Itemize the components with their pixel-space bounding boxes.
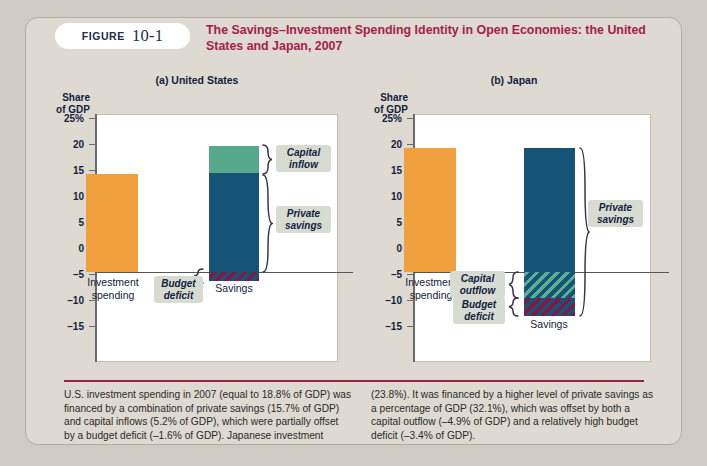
plot-area-jp: Share of GDP 25% 20 15 10 5 0 [356, 90, 672, 365]
brace-private-savings-us [261, 174, 273, 273]
annotation-budget-deficit-line1-us: Budget [158, 278, 199, 290]
y-tick-20-us [89, 144, 96, 145]
brace-budget-deficit-jp [508, 297, 520, 317]
category-label-savings-us: Savings [198, 282, 270, 295]
figure-root: Figure 10-1 The Savings–Investment Spend… [0, 0, 707, 466]
caption-left: U.S. investment spending in 2007 (equal … [64, 388, 352, 445]
panel-japan: (b) Japan Share of GDP 25% 20 [356, 74, 672, 365]
annotation-private-savings-line2-jp: savings [592, 214, 639, 226]
annotation-private-savings-line1-jp: Private [592, 202, 639, 214]
bar-investment-spending-jp [404, 148, 456, 272]
annotation-budget-deficit-line1-jp: Budget [457, 299, 501, 311]
panel-title-us: (a) United States [38, 74, 356, 86]
y-label-25-us: 25% [40, 113, 84, 124]
bar-segment-budget-deficit-us [209, 272, 259, 281]
annotation-private-savings-line1-us: Private [280, 208, 327, 220]
brace-capital-inflow-us [261, 144, 273, 175]
annotation-budget-deficit-us: Budget deficit [154, 276, 203, 303]
category-label-savings-jp: Savings [513, 318, 585, 331]
annotation-capital-outflow-jp: Capital outflow [450, 271, 505, 298]
caption-right: (23.8%). It was financed by a higher lev… [371, 388, 656, 442]
y-axis-title-us: Share of GDP [38, 92, 90, 115]
category-label-investment-line1-us: Investment [71, 276, 155, 289]
y-label-5-us: 5 [40, 217, 84, 228]
y-label-20-jp: 20 [358, 139, 402, 150]
annotation-capital-outflow-line2-jp: outflow [454, 285, 501, 297]
annotation-budget-deficit-jp: Budget deficit [453, 297, 505, 324]
caption-right-block: (23.8%). It was financed by a higher lev… [371, 388, 656, 445]
y-label-20-us: 20 [40, 139, 84, 150]
y-label-0-jp: 0 [358, 243, 402, 254]
caption-divider [64, 380, 644, 382]
annotation-capital-inflow-line2-us: inflow [280, 159, 327, 171]
figure-number: 10-1 [132, 26, 163, 46]
y-axis-title-line1: Share [38, 92, 90, 104]
figure-number-pill: Figure 10-1 [55, 23, 190, 49]
plot-area-us: Share of GDP 25% 20 15 10 5 [38, 90, 356, 365]
y-tick-n15-us [89, 326, 96, 327]
category-label-investment-us: Investment spending [71, 276, 155, 301]
category-label-investment-line2-us: spending [71, 289, 155, 302]
bar-segment-budget-deficit-jp [524, 298, 575, 316]
panel-title-jp: (b) Japan [356, 74, 672, 86]
y-axis-title-line1-jp: Share [356, 92, 408, 104]
y-tick-20-jp [407, 144, 414, 145]
bar-segment-private-savings-us [209, 173, 259, 272]
annotation-budget-deficit-line2-jp: deficit [457, 311, 501, 323]
figure-header: Figure 10-1 The Savings–Investment Spend… [26, 18, 681, 70]
y-label-15-us: 15 [40, 165, 84, 176]
y-label-15-jp: 15 [358, 165, 402, 176]
figure-card: Figure 10-1 The Savings–Investment Spend… [25, 17, 682, 445]
y-label-25-jp: 25% [358, 113, 402, 124]
annotation-private-savings-jp: Private savings [588, 200, 643, 227]
y-tick-25-us [89, 118, 96, 119]
figure-title: The Savings–Investment Spending Identity… [206, 23, 666, 54]
bar-segment-private-savings-jp [524, 148, 575, 272]
y-label-10-jp: 10 [358, 191, 402, 202]
y-tick-25-jp [407, 118, 414, 119]
annotation-private-savings-us: Private savings [276, 206, 331, 233]
bar-segment-capital-inflow-us [209, 146, 259, 173]
annotation-capital-outflow-line1-jp: Capital [454, 273, 501, 285]
y-tick-n15-jp [407, 326, 414, 327]
bar-investment-spending-us [86, 174, 138, 272]
brace-private-savings-jp [578, 147, 590, 317]
brace-capital-outflow-jp [508, 271, 520, 299]
bar-segment-capital-outflow-jp [524, 272, 575, 298]
figure-label-word: Figure [82, 30, 125, 42]
y-label-n15-us: –15 [40, 321, 84, 332]
y-label-0-us: 0 [40, 243, 84, 254]
annotation-capital-inflow-us: Capital inflow [276, 145, 331, 172]
y-tick-15-us [89, 170, 96, 171]
panel-united-states: (a) United States Share of GDP 25% [38, 74, 356, 365]
annotation-budget-deficit-line2-us: deficit [158, 290, 199, 302]
y-label-10-us: 10 [40, 191, 84, 202]
y-label-5-jp: 5 [358, 217, 402, 228]
annotation-capital-inflow-line1-us: Capital [280, 147, 327, 159]
y-label-n15-jp: –15 [358, 321, 402, 332]
annotation-private-savings-line2-us: savings [280, 220, 327, 232]
y-axis-title-jp: Share of GDP [356, 92, 408, 115]
